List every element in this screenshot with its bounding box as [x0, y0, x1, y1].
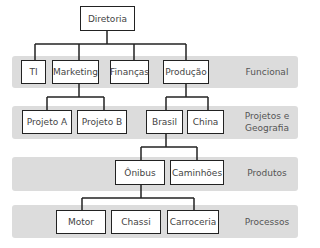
- level-label-funcional: Funcional: [236, 66, 298, 78]
- node-brasil: Brasil: [146, 110, 183, 134]
- node-diretoria: Diretoria: [80, 6, 135, 31]
- level-label-produtos: Produtos: [236, 167, 298, 179]
- node-producao: Produção: [163, 60, 209, 84]
- node-financas: Finanças: [110, 60, 149, 84]
- node-projeto-b: Projeto B: [77, 110, 127, 134]
- node-projeto-a: Projeto A: [22, 110, 72, 134]
- node-motor: Motor: [56, 210, 106, 234]
- node-carroceria: Carroceria: [167, 210, 219, 234]
- node-ti: TI: [21, 60, 46, 84]
- level-label-processos: Processos: [236, 216, 298, 228]
- node-chassi: Chassi: [111, 210, 161, 234]
- level-label-line-2: Geografia: [236, 122, 298, 134]
- node-onibus: Ônibus: [115, 160, 165, 185]
- node-caminhoes: Caminhões: [170, 160, 224, 185]
- node-marketing: Marketing: [52, 60, 99, 84]
- level-label-projetos-geografia: Projetos e Geografia: [236, 110, 298, 134]
- level-label-line-1: Projetos e: [236, 110, 298, 122]
- node-china: China: [187, 110, 224, 134]
